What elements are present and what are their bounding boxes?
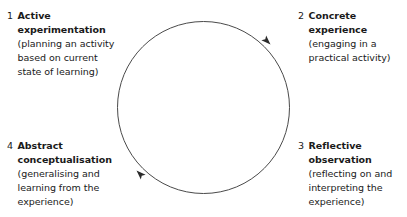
stage-title: Reflective observation [309,139,393,167]
cycle-circle [118,22,290,194]
stage-number: 2 [298,9,309,23]
stage-concrete-experience: 2 Concrete experience (engaging in a pra… [298,9,390,65]
stage-detail: (reflecting on and interpreting the expe… [309,167,393,209]
stage-reflective-observation: 3 Reflective observation (reflecting on … [298,139,392,209]
stage-text-block: Abstract conceptualisation (generalising… [18,139,112,209]
stage-detail: (engaging in a practical activity) [309,37,391,65]
stage-detail: (planning an activity based on current s… [18,37,115,79]
stage-abstract-conceptualisation: 4 Abstract conceptualisation (generalisi… [7,139,112,209]
stage-number: 4 [7,139,18,153]
stage-text-block: Reflective observation (reflecting on an… [309,139,393,209]
stage-number: 3 [298,139,309,153]
stage-active-experimentation: 1 Active experimentation (planning an ac… [7,9,114,79]
stage-detail: (generalising and learning from the expe… [18,167,112,209]
stage-number: 1 [7,9,18,23]
learning-cycle-diagram: 1 Active experimentation (planning an ac… [0,0,407,217]
stage-title: Abstract conceptualisation [18,139,112,167]
stage-title: Active experimentation [18,9,115,37]
stage-title: Concrete experience [309,9,391,37]
stage-text-block: Concrete experience (engaging in a pract… [309,9,391,65]
stage-text-block: Active experimentation (planning an acti… [18,9,115,79]
